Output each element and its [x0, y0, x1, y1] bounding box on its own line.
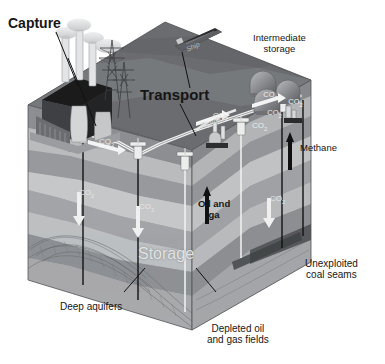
co2-text: CO [213, 111, 225, 120]
co2-text: CO [267, 108, 278, 117]
label-deep-aquifers: Deep aquifers [60, 301, 122, 312]
ccs-diagram-figure: Capture Transport Intermediate storage S… [0, 0, 385, 364]
co2-subscript: 2 [275, 95, 278, 101]
co2-subscript: 2 [151, 207, 154, 213]
gas-label-tank-3: CO2 [259, 101, 282, 128]
co2-text: CO [99, 137, 111, 146]
label-oil-and-gas: Oil and ga [198, 199, 230, 220]
co2-subscript: 2 [300, 102, 303, 108]
diagram-artwork [0, 0, 385, 364]
co2-text: CO [288, 97, 299, 106]
gas-label-surface-2: CO2 [204, 103, 228, 131]
label-intermediate-storage: Intermediate storage [253, 33, 306, 54]
co2-subscript: 2 [225, 116, 228, 122]
co2-text: CO [263, 90, 274, 99]
gas-label-under-aquifer: CO2 [70, 180, 94, 208]
label-methane: Methane [300, 143, 337, 154]
label-capture: Capture [8, 16, 61, 32]
label-storage: Storage [138, 245, 194, 263]
gas-label-under-coal: CO2 [261, 186, 285, 214]
co2-text: CO [270, 194, 282, 203]
co2-subscript: 2 [279, 113, 282, 119]
co2-subscript: 2 [111, 142, 114, 148]
label-coal-seams: Unexploited coal seams [305, 258, 358, 280]
label-depleted-fields: Depleted oil and gas fields [207, 323, 269, 345]
co2-subscript: 2 [91, 193, 94, 199]
co2-text: CO [139, 202, 151, 211]
co2-subscript: 2 [282, 199, 285, 205]
co2-text: CO [79, 188, 91, 197]
gas-label-under-depleted: CO2 [130, 194, 154, 222]
gas-label-tank-2: CO2 [280, 90, 303, 117]
label-transport: Transport [140, 87, 209, 104]
gas-label-surface-1: CO2 [90, 129, 114, 157]
